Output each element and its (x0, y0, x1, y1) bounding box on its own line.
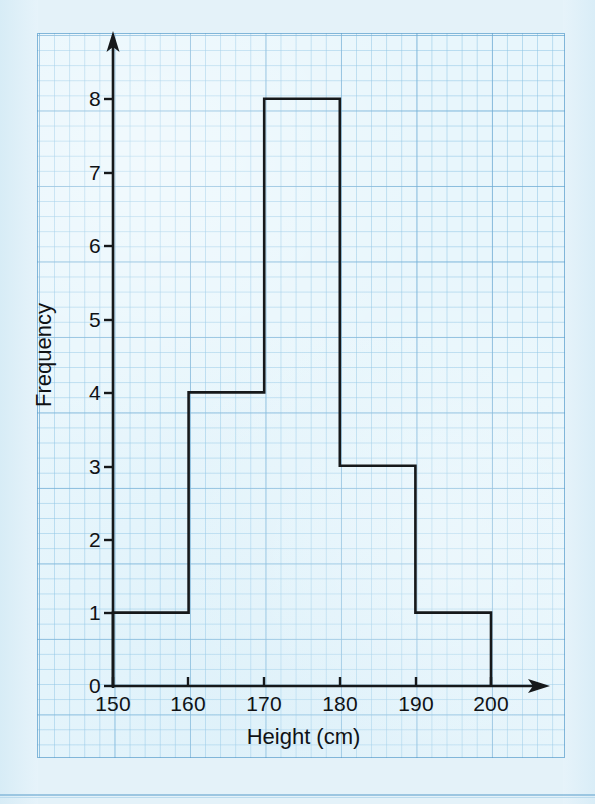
y-tick-marks (104, 99, 113, 686)
x-tick-label-190: 190 (398, 692, 434, 716)
histogram-bars-outline (113, 99, 491, 686)
x-tick-marks (113, 677, 491, 686)
y-tick-label-6: 6 (75, 234, 101, 258)
x-tick-label-160: 160 (170, 692, 206, 716)
y-tick-label-5: 5 (75, 308, 101, 332)
x-tick-label-180: 180 (322, 692, 358, 716)
scanned-page: 150 160 170 180 190 200 0 1 2 3 4 5 6 7 … (0, 0, 595, 804)
y-tick-label-1: 1 (75, 601, 101, 625)
y-tick-label-3: 3 (75, 455, 101, 479)
page-bottom-rule-2 (0, 797, 595, 798)
x-tick-label-170: 170 (246, 692, 282, 716)
y-tick-label-2: 2 (75, 528, 101, 552)
y-tick-label-8: 8 (75, 87, 101, 111)
y-axis-title: Frequency (31, 303, 57, 407)
x-axis-title-text: Height (cm) (247, 724, 361, 749)
y-tick-label-0: 0 (75, 674, 101, 698)
page-bottom-rule (0, 794, 595, 796)
x-tick-label-200: 200 (473, 692, 509, 716)
x-axis-title: Height (cm) (0, 724, 595, 750)
y-tick-label-7: 7 (75, 161, 101, 185)
y-tick-label-4: 4 (75, 381, 101, 405)
